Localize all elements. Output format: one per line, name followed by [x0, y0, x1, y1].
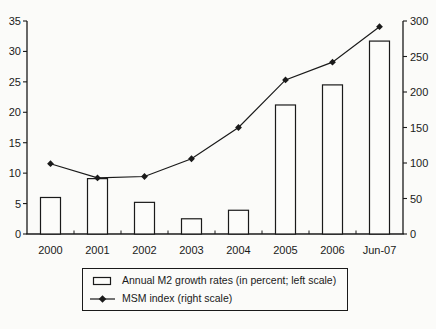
right-axis-tick-label: 150: [410, 122, 428, 134]
left-axis-tick-label: 30: [9, 45, 21, 57]
left-axis-tick-label: 5: [15, 198, 21, 210]
chart-plot-area: 0510152025303505010015020025030020002001…: [0, 0, 436, 262]
right-axis-tick-label: 300: [410, 15, 428, 27]
x-axis-label-2002: 2002: [132, 244, 156, 256]
left-axis-tick-label: 25: [9, 76, 21, 88]
x-axis-label-2005: 2005: [273, 244, 297, 256]
bar-2003: [182, 219, 202, 234]
legend-label-msm: MSM index (right scale): [122, 292, 232, 305]
x-axis-label-2001: 2001: [85, 244, 109, 256]
x-axis-label-2006: 2006: [320, 244, 344, 256]
bar-2005: [276, 105, 296, 234]
left-axis-tick-label: 10: [9, 167, 21, 179]
bar-2000: [41, 197, 61, 234]
left-axis-tick-label: 0: [15, 228, 21, 240]
x-axis-label-2003: 2003: [179, 244, 203, 256]
right-axis-tick-label: 50: [410, 193, 422, 205]
left-axis-tick-label: 20: [9, 106, 21, 118]
m2-msm-combo-chart-figure: 0510152025303505010015020025030020002001…: [0, 0, 436, 329]
x-axis-label-2004: 2004: [226, 244, 250, 256]
right-axis-tick-label: 200: [410, 86, 428, 98]
legend-item-m2: Annual M2 growth rates (in percent; left…: [90, 274, 336, 287]
bar-2002: [135, 202, 155, 234]
bar-swatch-rect: [94, 277, 111, 284]
right-axis-tick-label: 0: [410, 228, 416, 240]
chart-legend: Annual M2 growth rates (in percent; left…: [82, 268, 348, 311]
bar-2006: [323, 85, 343, 234]
right-axis-tick-label: 100: [410, 157, 428, 169]
left-axis-tick-label: 35: [9, 15, 21, 27]
x-axis-label-Jun-07: Jun-07: [363, 244, 397, 256]
legend-item-msm: MSM index (right scale): [90, 292, 336, 305]
bar-2001: [88, 179, 108, 234]
x-axis-label-2000: 2000: [38, 244, 62, 256]
msm-diamond-marker-2000: [47, 160, 54, 167]
right-axis-tick-label: 250: [410, 51, 428, 63]
legend-label-m2: Annual M2 growth rates (in percent; left…: [122, 274, 336, 287]
diamond-marker-icon: [99, 295, 107, 303]
bar-swatch-icon: [90, 275, 115, 287]
msm-diamond-marker-2003: [188, 155, 195, 162]
msm-diamond-marker-2002: [141, 173, 148, 180]
left-axis-tick-label: 15: [9, 137, 21, 149]
line-diamond-swatch-icon: [90, 293, 115, 305]
bar-Jun-07: [370, 41, 390, 234]
bar-2004: [229, 210, 249, 234]
